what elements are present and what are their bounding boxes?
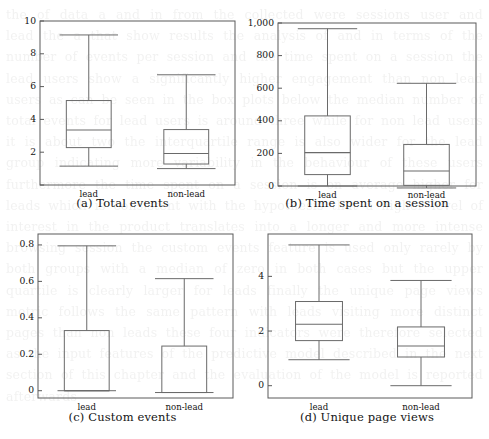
y-tick-label-b-3: 600 [256,82,274,93]
y-tick-label-a-1: 2 [30,146,36,157]
y-tick-label-d-2: 4 [258,270,264,281]
y-tick-label-b-1: 200 [256,147,274,158]
plot-area-d: 024leadnon-lead [245,220,489,406]
plot-frame-d [268,234,472,398]
box-iqr [398,327,445,357]
boxplot-a-non-lead [157,75,216,169]
boxplot-c-lead [58,246,117,391]
y-tick-label-b-5: 1,000 [248,17,274,28]
y-tick-label-b-0: 0 [268,180,274,191]
boxplot-b-lead [298,29,357,186]
y-tick-label-c-3: 0.6 [19,275,34,286]
y-tick-label-c-0: 0 [28,384,34,395]
y-tick-label-d-1: 2 [258,325,264,336]
panel-d-caption: (d) Unique page views [245,410,489,424]
plot-frame-b [278,23,476,186]
box-iqr [305,116,351,175]
boxplot-c-non-lead [155,279,214,393]
box-iqr [162,346,207,392]
plot-frame-c [38,234,233,398]
boxplot-a-lead [60,35,119,166]
panel-c-caption: (c) Custom events [0,410,245,424]
y-tick-label-a-4: 8 [30,47,36,58]
y-tick-label-d-0: 0 [258,379,264,390]
panel-d: 024leadnon-lead (d) Unique page views [245,220,489,439]
box-iqr [404,144,450,185]
box-iqr [64,331,109,391]
y-tick-label-c-2: 0.4 [19,311,34,322]
box-iqr [164,130,209,164]
y-tick-label-a-2: 4 [30,113,36,124]
panel-c: 00.20.40.60.8leadnon-lead (c) Custom eve… [0,220,245,439]
panel-a: 246810leadnon-lead (a) Total events [0,0,245,220]
y-tick-label-a-3: 6 [30,80,36,91]
box-iqr [66,101,111,148]
boxplot-b-non-lead [397,83,456,188]
y-tick-label-b-4: 800 [256,49,274,60]
y-tick-label-c-1: 0.2 [19,348,34,359]
plot-area-a: 246810leadnon-lead [0,0,245,192]
panel-b-caption: (b) Time spent on a session [245,196,489,210]
y-tick-label-a-5: 10 [24,15,36,26]
panel-a-caption: (a) Total events [0,196,245,210]
panel-b: 02004006008001,000leadnon-lead (b) Time … [245,0,489,220]
plot-frame-a [40,21,235,185]
y-tick-label-c-4: 0.8 [19,238,34,249]
boxplot-d-lead [288,245,349,360]
boxplot-d-non-lead [390,280,451,385]
plot-area-b: 02004006008001,000leadnon-lead [245,0,489,192]
box-iqr [296,302,343,341]
boxplot-figure: 246810leadnon-lead (a) Total events 0200… [0,0,489,439]
y-tick-label-b-2: 400 [256,114,274,125]
plot-area-c: 00.20.40.60.8leadnon-lead [0,220,245,406]
